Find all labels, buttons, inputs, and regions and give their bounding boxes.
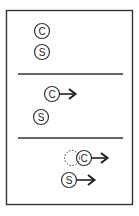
node-s: S	[34, 110, 49, 125]
node-c-moving: C	[77, 151, 108, 166]
node-s: S	[35, 45, 50, 60]
node-s-moving: S	[62, 173, 95, 188]
node-label: S	[38, 112, 45, 123]
node-label: C	[80, 153, 87, 164]
arrow-right-icon	[60, 89, 76, 99]
node-c: C	[35, 24, 50, 39]
panel-2: C S	[34, 87, 76, 125]
node-label: C	[38, 26, 45, 37]
node-c-moving: C	[45, 87, 76, 102]
panel-3: C S	[62, 151, 108, 188]
panel-1: C S	[35, 24, 50, 60]
node-label: S	[39, 47, 46, 58]
arrow-right-icon	[77, 175, 95, 185]
diagram-canvas: C S C S C	[0, 0, 139, 216]
node-label: S	[66, 175, 73, 186]
arrow-right-icon	[92, 153, 108, 163]
node-label: C	[48, 89, 55, 100]
